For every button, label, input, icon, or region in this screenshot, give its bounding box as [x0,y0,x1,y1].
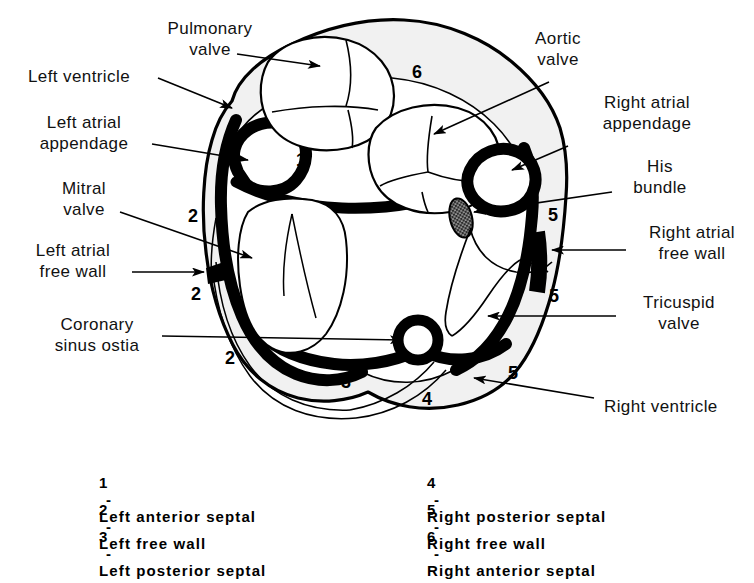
label-left-ventricle: Left ventricle [28,66,164,87]
label-left-atrial-free-wall: Left atrial free wall [12,240,134,282]
right-atrial-appendage-opening [467,149,535,211]
label-left-atrial-appendage: Left atrial appendage [18,112,150,154]
legend-row-6: 6 - Right anterior septal [406,511,596,583]
right-atrial-free-wall-segment [537,232,539,292]
region-marker-5b: 5 [549,286,559,306]
label-aortic-valve: Aortic valve [506,28,610,70]
label-right-atrial-appendage: Right atrial appendage [576,92,718,134]
coronary-sinus-ostia [398,320,438,360]
label-mitral-valve: Mitral valve [36,178,132,220]
region-marker-2b: 2 [191,284,201,304]
region-marker-2c: 2 [225,348,235,368]
label-right-ventricle: Right ventricle [604,396,754,417]
legend-sep-3: - [106,545,112,562]
legend-row-3: 3 - Left posterior septal [78,511,266,583]
label-his-bundle: His bundle [618,156,702,198]
legend-sep-6: - [434,545,440,562]
label-pulmonary-valve: Pulmonary valve [150,18,270,60]
region-marker-4: 4 [422,389,432,409]
label-tricuspid-valve: Tricuspid valve [620,292,738,334]
region-marker-1: 1 [296,150,306,170]
leader-left-ventricle [158,78,232,108]
region-marker-2a: 2 [188,206,198,226]
legend-number-3: 3 [99,528,108,545]
region-marker-6: 6 [412,62,422,82]
legend-name-3: Left posterior septal [99,562,266,579]
label-right-atrial-free-wall: Right atrial free wall [630,222,754,264]
legend-name-6: Right anterior septal [427,562,596,579]
region-marker-5a: 5 [548,205,558,225]
legend-number-6: 6 [427,528,436,545]
region-marker-5c: 5 [508,363,518,383]
label-coronary-sinus-ostia: Coronary sinus ostia [32,314,162,356]
region-marker-3: 3 [341,372,351,392]
